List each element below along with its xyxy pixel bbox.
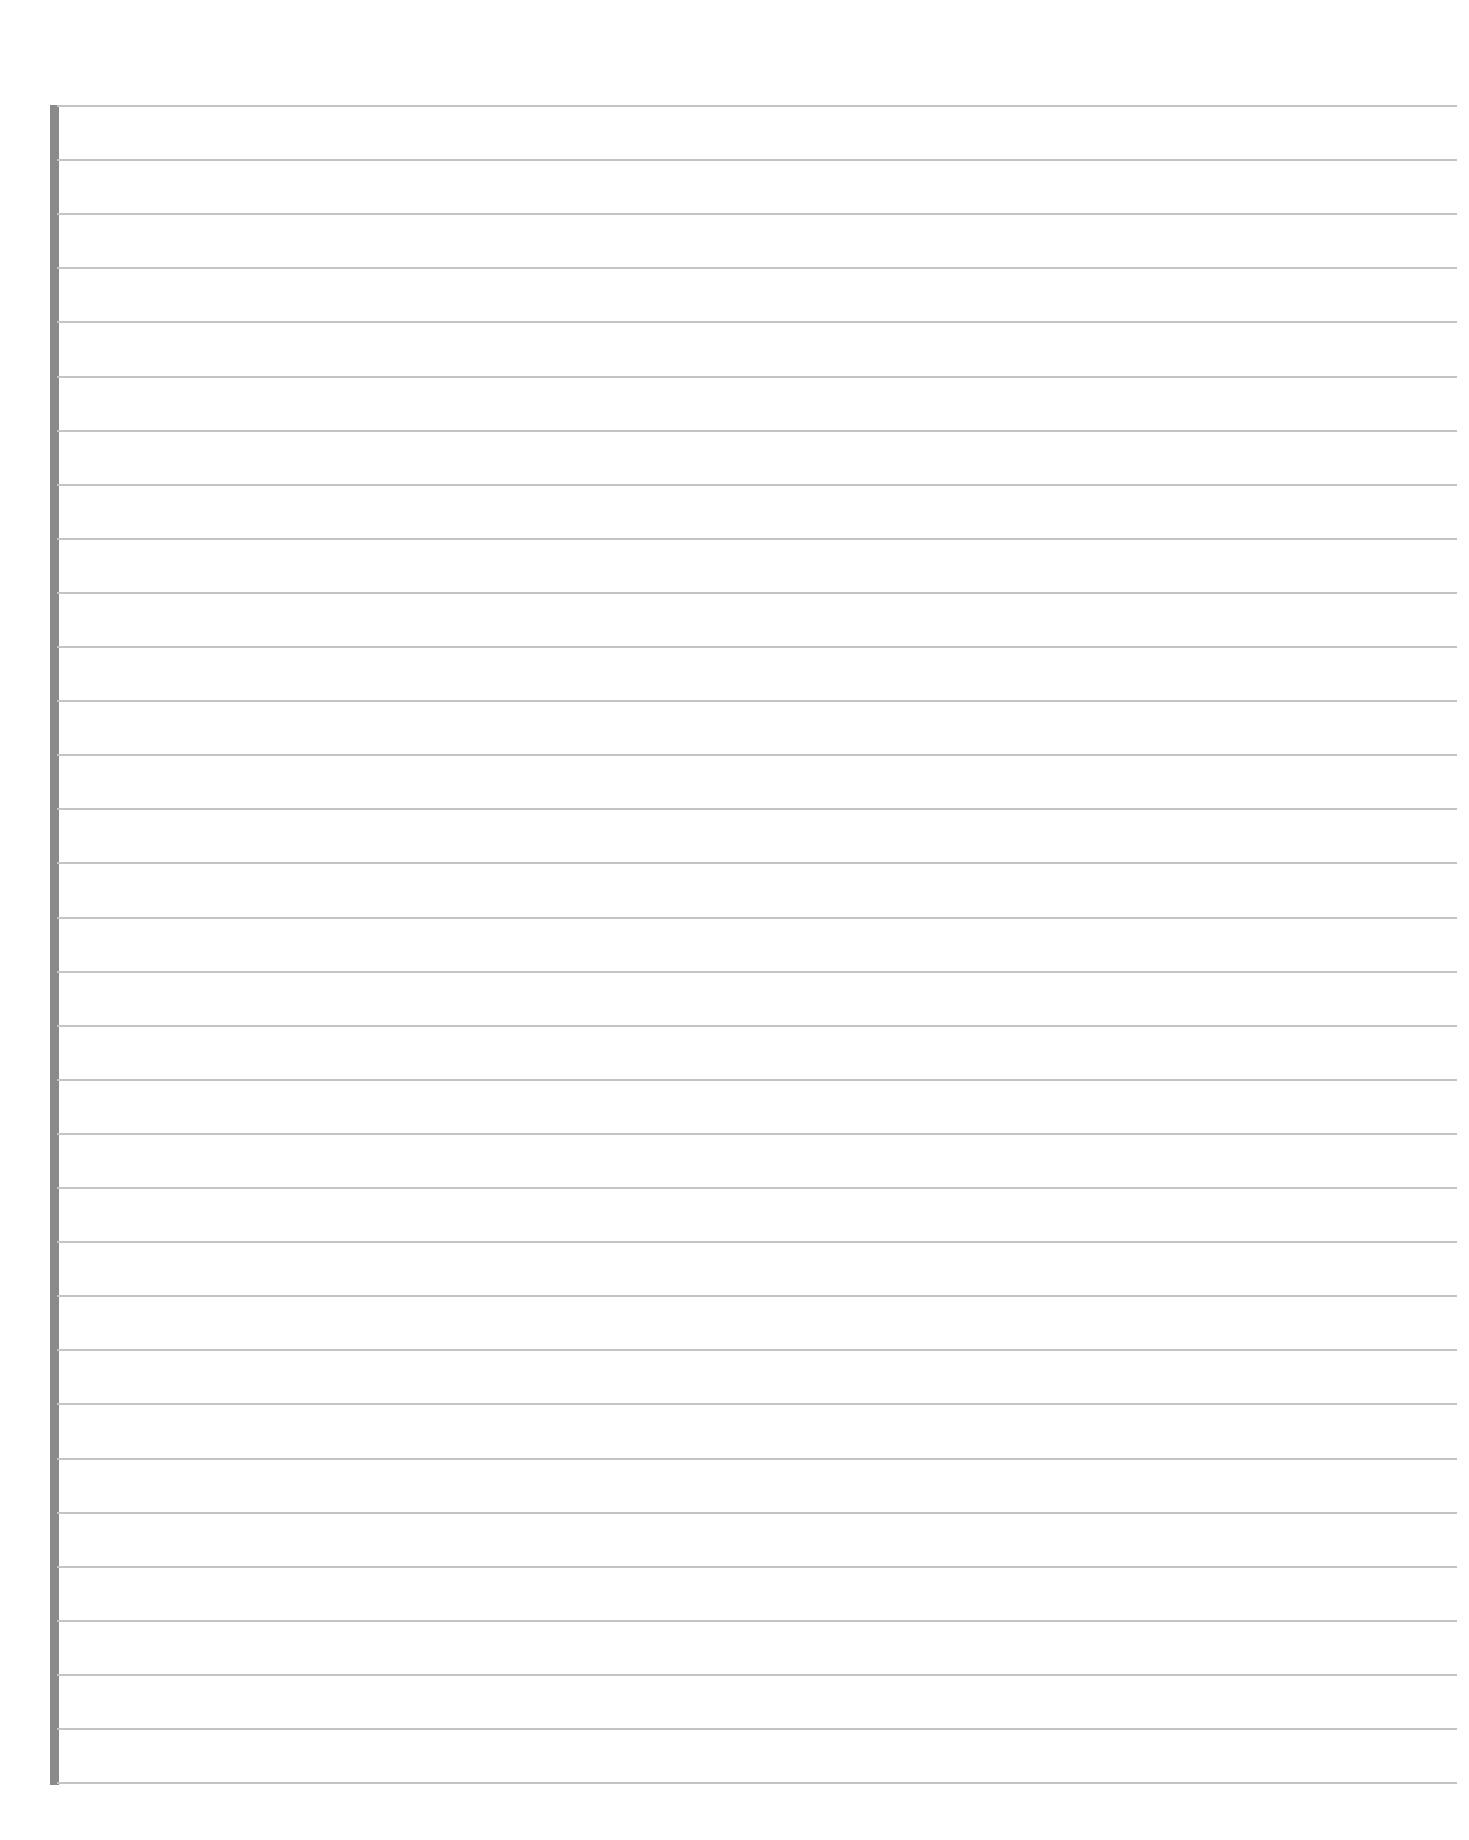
ruled-line (57, 1403, 1457, 1405)
left-margin-bar (50, 105, 59, 1785)
ruled-line (57, 1025, 1457, 1027)
ruled-line (57, 159, 1457, 161)
lined-paper-sheet (0, 0, 1469, 1840)
ruled-line (57, 321, 1457, 323)
ruled-line (57, 1728, 1457, 1730)
ruled-line (57, 1566, 1457, 1568)
ruled-line (57, 267, 1457, 269)
ruled-line (57, 1620, 1457, 1622)
ruled-line (57, 213, 1457, 215)
ruled-line (57, 700, 1457, 702)
ruled-line (57, 1133, 1457, 1135)
ruled-line (57, 538, 1457, 540)
ruled-line (57, 917, 1457, 919)
ruled-line (57, 1187, 1457, 1189)
ruled-line (57, 376, 1457, 378)
ruled-line (57, 646, 1457, 648)
ruled-line (57, 484, 1457, 486)
ruled-line (57, 1512, 1457, 1514)
ruled-line (57, 430, 1457, 432)
ruled-line (57, 754, 1457, 756)
ruled-line (57, 1079, 1457, 1081)
ruled-line (57, 808, 1457, 810)
ruled-line (57, 1674, 1457, 1676)
ruled-line (57, 1458, 1457, 1460)
ruled-line (57, 592, 1457, 594)
ruled-line (57, 971, 1457, 973)
ruled-line (57, 1295, 1457, 1297)
ruled-line (57, 862, 1457, 864)
ruled-line (57, 1782, 1457, 1784)
ruled-line (57, 105, 1457, 107)
ruled-line (57, 1349, 1457, 1351)
ruled-line (57, 1241, 1457, 1243)
